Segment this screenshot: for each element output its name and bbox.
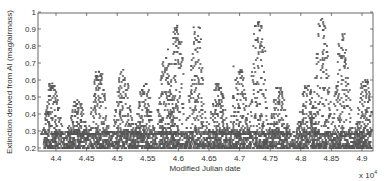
x-tick-label: 4.5 [112, 154, 124, 163]
x-tick-label: 4.7 [234, 154, 246, 163]
y-tick-label: 0.5 [25, 93, 37, 102]
y-tick-label: 0.9 [25, 25, 37, 34]
y-tick-label: 0.4 [25, 110, 37, 119]
y-tick-label: 0.3 [25, 127, 37, 136]
x-tick-label: 4.45 [79, 154, 95, 163]
y-tick-label: 1 [32, 8, 37, 17]
y-tick-label: 0.6 [25, 76, 37, 85]
y-tick-label: 0.7 [25, 59, 37, 68]
y-tick-label: 0.8 [25, 42, 37, 51]
x-tick-label: 4.55 [140, 154, 156, 163]
x-axis-label: Modified Julian date [169, 164, 241, 173]
x-tick-label: 4.6 [173, 154, 185, 163]
x-tick-label: 4.9 [356, 154, 368, 163]
x-tick-label: 4.4 [50, 154, 62, 163]
x-tick-label: 4.8 [295, 154, 307, 163]
y-tick-label: 0.2 [25, 144, 37, 153]
x-tick-label: 4.75 [262, 154, 278, 163]
y-axis-label: Extinction derived from AI (mag/airmass) [5, 10, 14, 154]
x-tick-label: 4.85 [324, 154, 340, 163]
x-tick-label: 4.65 [201, 154, 217, 163]
scatter-chart: 4.44.454.54.554.64.654.74.754.84.854.9 0… [0, 0, 389, 181]
